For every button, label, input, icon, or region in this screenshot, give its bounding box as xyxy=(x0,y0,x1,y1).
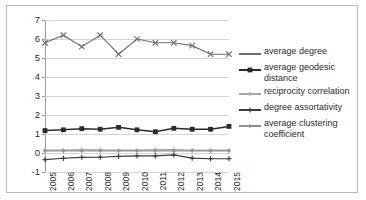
x-axis-tick-label: 2009 xyxy=(122,172,131,191)
y-axis-tick-label: 5 xyxy=(35,53,40,63)
data-point xyxy=(79,44,84,49)
data-point xyxy=(98,33,103,38)
data-point xyxy=(209,149,213,153)
x-axis-labels: 2005200620072008200920102011201220132014… xyxy=(45,172,229,200)
data-point xyxy=(43,128,48,133)
data-point xyxy=(190,156,195,161)
data-point xyxy=(135,149,139,153)
legend-label: average clustering coefficient xyxy=(264,118,357,140)
data-point xyxy=(42,40,47,45)
chart-frame: 76543210-1 20052006200720082009201020112… xyxy=(6,5,358,193)
y-axis-tick-label: -1 xyxy=(32,167,40,177)
y-axis-tick-label: 0 xyxy=(35,148,40,158)
data-point xyxy=(248,68,253,73)
chart-legend: average degreeaverage geodesic distancer… xyxy=(239,46,357,142)
x-axis-tick-label: 2011 xyxy=(159,172,168,190)
x-axis-tick-label: 2006 xyxy=(67,172,76,191)
data-point xyxy=(135,127,140,132)
y-axis-tick-label: 1 xyxy=(35,129,40,139)
data-point xyxy=(79,126,84,131)
series-layer xyxy=(45,20,229,172)
legend-label: average degree xyxy=(264,46,357,57)
x-axis-tick-label: 2007 xyxy=(85,172,94,191)
y-axis-tick-label: 6 xyxy=(35,34,40,44)
x-axis-tick-label: 2015 xyxy=(233,172,242,191)
data-point xyxy=(153,129,158,134)
legend-item[interactable]: average geodesic distance xyxy=(239,62,357,84)
y-axis-tick-label: 7 xyxy=(35,15,40,25)
data-point xyxy=(61,33,66,38)
data-point xyxy=(226,156,231,161)
y-axis-tick-label: 4 xyxy=(35,72,40,82)
data-point xyxy=(116,52,121,57)
legend-marker-icon xyxy=(239,120,261,132)
data-point xyxy=(61,127,66,132)
legend-item[interactable]: degree assortativity xyxy=(239,102,357,116)
data-point xyxy=(79,155,84,160)
x-axis-tick-label: 2014 xyxy=(214,172,223,191)
series-line xyxy=(45,35,229,54)
data-point xyxy=(171,126,176,131)
data-point xyxy=(208,156,213,161)
series-degree-assortativity xyxy=(42,152,231,162)
data-point xyxy=(248,92,252,96)
data-point xyxy=(98,127,103,132)
data-point xyxy=(227,149,231,153)
data-point xyxy=(248,124,252,128)
data-point xyxy=(116,125,121,130)
x-axis-tick-label: 2012 xyxy=(177,172,186,191)
x-axis-tick-label: 2008 xyxy=(104,172,113,191)
legend-item[interactable]: average degree xyxy=(239,46,357,60)
data-point xyxy=(134,153,139,158)
x-axis-tick-label: 2005 xyxy=(49,172,58,191)
legend-label: reciprocity correlation xyxy=(264,86,357,97)
legend-item[interactable]: reciprocity correlation xyxy=(239,86,357,100)
legend-marker-icon xyxy=(239,64,261,76)
data-point xyxy=(208,127,213,132)
y-axis-tick-label: 2 xyxy=(35,110,40,120)
data-point xyxy=(171,152,176,157)
data-point xyxy=(42,157,47,162)
data-point xyxy=(190,127,195,132)
legend-marker-icon xyxy=(239,88,261,100)
x-axis-tick-label: 2010 xyxy=(141,172,150,191)
y-axis-tick-label: 3 xyxy=(35,91,40,101)
legend-label: degree assortativity xyxy=(264,102,357,113)
data-point xyxy=(153,153,158,158)
data-point xyxy=(227,124,232,129)
data-point xyxy=(117,149,121,153)
series-average-degree xyxy=(42,33,231,57)
x-axis-tick-label: 2013 xyxy=(196,172,205,191)
legend-marker-icon xyxy=(239,48,261,60)
data-point xyxy=(98,155,103,160)
series-average-geodesic-distance xyxy=(43,124,232,134)
data-point xyxy=(116,154,121,159)
legend-item[interactable]: average clustering coefficient xyxy=(239,118,357,140)
legend-marker-icon xyxy=(239,104,261,116)
data-point xyxy=(61,156,66,161)
legend-label: average geodesic distance xyxy=(264,62,357,84)
data-point xyxy=(247,107,252,112)
line-chart: 76543210-1 20052006200720082009201020112… xyxy=(7,6,359,194)
